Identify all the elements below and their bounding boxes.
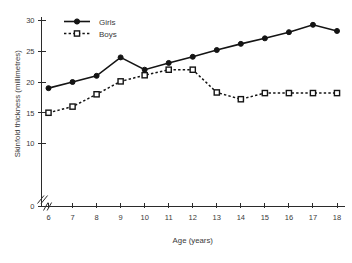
boys-data-point — [238, 97, 243, 102]
boys-data-point — [46, 110, 51, 115]
skinfold-thickness-line-chart: 01015202530 6789101112131415161718 Girls — [0, 0, 352, 263]
x-tick-label: 9 — [119, 213, 123, 222]
boys-data-point — [286, 90, 291, 95]
boys-data-point — [118, 79, 123, 84]
legend-girls-marker-icon — [74, 19, 79, 24]
legend: Girls Boys — [64, 18, 117, 39]
x-tick-label: 8 — [94, 213, 98, 222]
y-axis-tick-labels: 01015202530 — [26, 16, 34, 211]
y-tick-label: 0 — [30, 202, 34, 211]
girls-data-point — [70, 80, 75, 85]
girls-data-point — [335, 28, 340, 33]
boys-data-markers — [46, 67, 340, 115]
x-tick-label: 7 — [70, 213, 74, 222]
x-tick-label: 17 — [309, 213, 317, 222]
boys-data-point — [94, 92, 99, 97]
x-tick-label: 10 — [140, 213, 148, 222]
girls-data-point — [94, 73, 99, 78]
x-tick-label: 13 — [213, 213, 221, 222]
y-break-slash — [41, 196, 48, 204]
girls-data-point — [214, 48, 219, 53]
x-axis-group: 6789101112131415161718 — [41, 203, 345, 222]
x-tick-label: 11 — [165, 213, 173, 222]
y-tick-label: 10 — [26, 139, 34, 148]
boys-data-point — [214, 90, 219, 95]
series-boys — [46, 67, 340, 115]
y-tick-label: 25 — [26, 47, 34, 56]
legend-entry-boys: Boys — [64, 30, 117, 39]
legend-boys-label: Boys — [99, 30, 117, 39]
girls-data-point — [262, 36, 267, 41]
boys-line-path — [49, 70, 338, 113]
x-tick-label: 15 — [261, 213, 269, 222]
y-axis-group: 01015202530 — [26, 16, 47, 211]
y-tick-label: 20 — [26, 78, 34, 87]
girls-data-point — [310, 22, 315, 27]
x-axis-title: Age (years) — [173, 236, 214, 245]
y-axis-title: Skinfold thickness (millimetres) — [13, 50, 22, 157]
legend-boys-marker-icon — [74, 31, 79, 36]
girls-data-point — [166, 60, 171, 65]
series-girls — [46, 22, 340, 90]
boys-data-point — [190, 67, 195, 72]
x-axis-tick-labels: 6789101112131415161718 — [46, 213, 341, 222]
x-tick-label: 14 — [237, 213, 245, 222]
girls-data-point — [238, 41, 243, 46]
boys-data-point — [142, 73, 147, 78]
y-tick-label: 30 — [26, 16, 34, 25]
girls-data-point — [286, 30, 291, 35]
chart-canvas: 01015202530 6789101112131415161718 Girls — [0, 0, 352, 263]
y-break-slash — [38, 196, 45, 204]
y-axis-break-icon — [38, 196, 48, 204]
girls-data-point — [142, 67, 147, 72]
boys-data-point — [166, 67, 171, 72]
x-tick-label: 12 — [189, 213, 197, 222]
boys-data-point — [334, 90, 339, 95]
girls-data-point — [190, 54, 195, 59]
x-tick-label: 18 — [333, 213, 341, 222]
boys-data-point — [70, 104, 75, 109]
girls-data-point — [118, 55, 123, 60]
legend-girls-label: Girls — [99, 18, 115, 27]
girls-data-point — [46, 86, 51, 91]
boys-data-point — [310, 90, 315, 95]
y-tick-label: 15 — [26, 109, 34, 118]
boys-data-point — [262, 90, 267, 95]
x-tick-label: 6 — [46, 213, 50, 222]
x-tick-label: 16 — [285, 213, 293, 222]
girls-data-markers — [46, 22, 340, 90]
legend-entry-girls: Girls — [64, 18, 115, 27]
